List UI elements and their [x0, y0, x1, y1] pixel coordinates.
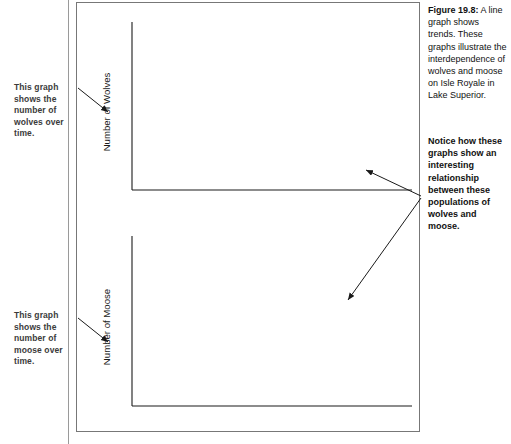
figure-caption: Figure 19.8: A line graph shows trends. …	[428, 4, 508, 102]
y-axis-title-wolves: Number of Wolves	[101, 72, 112, 151]
y-axis-title-moose: Number of Moose	[101, 289, 112, 365]
annotation-moose-note: This graph shows the number of moose ove…	[14, 310, 72, 368]
chart-moose-svg: Number of Moose	[76, 222, 420, 432]
figure-label: Figure 19.8:	[428, 5, 479, 15]
left-divider-rule	[68, 0, 69, 444]
annotation-wolves-note: This graph shows the number of wolves ov…	[14, 82, 72, 140]
chart-wolves-svg: Number of Wolves	[76, 2, 420, 214]
figure-caption-body: A line graph shows trends. These graphs …	[428, 5, 507, 100]
chart-wolves-population: Number of Wolves	[76, 2, 420, 214]
figure-caption-note: Notice how these graphs show an interest…	[428, 135, 508, 233]
chart-moose-population: Number of Moose	[76, 222, 420, 432]
